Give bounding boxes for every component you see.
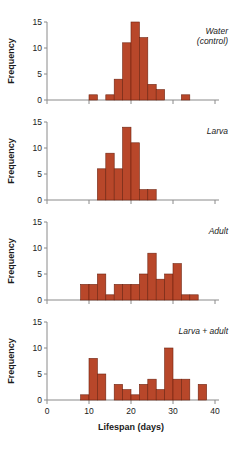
histogram-bar — [97, 169, 105, 200]
y-tick-label: 5 — [37, 69, 42, 79]
histogram-bar — [181, 295, 189, 300]
histogram-bar — [165, 274, 173, 300]
histogram-bar — [181, 379, 189, 400]
histogram-bar — [114, 284, 122, 300]
x-tick-label: 0 — [45, 406, 50, 416]
histogram-bar — [198, 384, 206, 400]
histogram-bar — [81, 395, 89, 400]
histogram-bar — [89, 95, 97, 100]
y-axis-title: Frequency — [6, 38, 16, 84]
histogram-bar — [148, 84, 156, 100]
histogram-bar — [181, 95, 189, 100]
histogram-bar — [156, 390, 164, 400]
histogram-bar — [114, 169, 122, 200]
histogram-bar — [139, 38, 147, 100]
histogram-bar — [97, 374, 105, 400]
y-tick-label: 10 — [33, 43, 43, 53]
histogram-bar — [97, 274, 105, 300]
y-tick-label: 10 — [33, 343, 43, 353]
histogram-bar — [131, 395, 139, 400]
panel-label: Larva — [207, 126, 229, 136]
panel-label: Adult — [208, 226, 229, 236]
histogram-bar — [106, 153, 114, 200]
histogram-bar — [139, 274, 147, 300]
histogram-bar — [139, 190, 147, 200]
histogram-bar — [89, 284, 97, 300]
y-axis-title: Frequency — [6, 138, 16, 184]
panel-label: Water — [205, 26, 229, 36]
y-tick-label: 0 — [37, 95, 42, 105]
x-tick-label: 10 — [84, 406, 94, 416]
y-tick-label: 0 — [37, 195, 42, 205]
y-tick-label: 15 — [33, 217, 43, 227]
panel-label: Larva + adult — [179, 326, 229, 336]
histogram-bar — [106, 95, 114, 100]
histogram-bar — [89, 358, 97, 400]
y-tick-label: 5 — [37, 169, 42, 179]
y-tick-label: 15 — [33, 17, 43, 27]
x-axis-title: Lifespan (days) — [98, 422, 164, 432]
histogram-bar — [81, 284, 89, 300]
y-tick-label: 15 — [33, 317, 43, 327]
histogram-bar — [148, 379, 156, 400]
histogram-bar — [131, 22, 139, 100]
y-tick-label: 5 — [37, 369, 42, 379]
x-tick-label: 30 — [168, 406, 178, 416]
histogram-bar — [156, 279, 164, 300]
histogram-bar — [123, 43, 131, 100]
y-tick-label: 15 — [33, 117, 43, 127]
histogram-bar — [148, 253, 156, 300]
histogram-bar — [106, 295, 114, 300]
y-tick-label: 5 — [37, 269, 42, 279]
histogram-bar — [165, 348, 173, 400]
histogram-figure: 051015FrequencyWater(control)051015Frequ… — [0, 0, 237, 452]
panel-label-secondary: (control) — [197, 36, 228, 46]
histogram-bar — [114, 79, 122, 100]
histogram-bar — [156, 90, 164, 100]
histogram-bar — [131, 284, 139, 300]
y-tick-label: 0 — [37, 395, 42, 405]
y-tick-label: 0 — [37, 295, 42, 305]
x-tick-label: 20 — [126, 406, 136, 416]
y-axis-title: Frequency — [6, 238, 16, 284]
y-tick-label: 10 — [33, 143, 43, 153]
histogram-bar — [173, 379, 181, 400]
x-tick-label: 40 — [210, 406, 220, 416]
histogram-bar — [139, 384, 147, 400]
histogram-bar — [148, 190, 156, 200]
histogram-bar — [131, 143, 139, 200]
histogram-bar — [123, 284, 131, 300]
histogram-bar — [173, 264, 181, 300]
y-axis-title: Frequency — [6, 338, 16, 384]
histogram-bar — [190, 295, 198, 300]
histogram-bar — [123, 127, 131, 200]
histogram-bar — [123, 390, 131, 400]
y-tick-label: 10 — [33, 243, 43, 253]
histogram-bar — [114, 384, 122, 400]
